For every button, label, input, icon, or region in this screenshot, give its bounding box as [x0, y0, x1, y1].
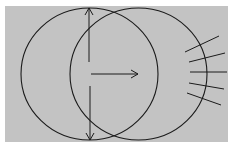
arrows-group: [89, 8, 138, 140]
tick-lines-group: [185, 36, 227, 105]
tick-line-2: [189, 53, 225, 62]
diagram-canvas: [0, 0, 231, 145]
